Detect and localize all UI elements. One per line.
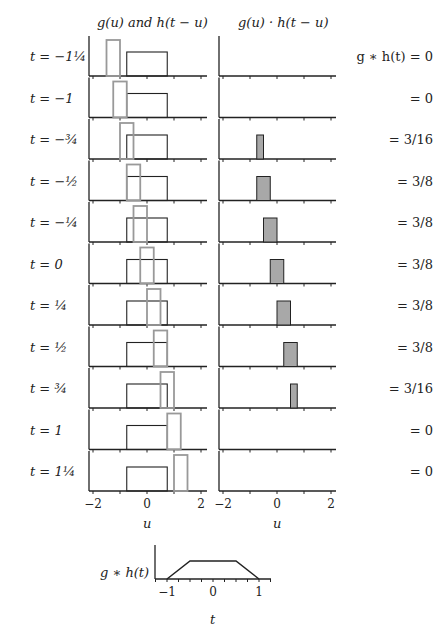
left-u-tick-label: 2 — [191, 497, 211, 511]
t-value-label: t = −¼ — [30, 215, 78, 230]
right-u-tick-label: −2 — [213, 497, 233, 511]
right-u-tick-label: 0 — [267, 497, 287, 511]
t-axis-label: t — [210, 612, 215, 627]
t-tick-label: 0 — [203, 585, 223, 599]
t-value-label: t = ½ — [30, 340, 67, 355]
h-shifted-rectangle — [107, 40, 121, 76]
convolution-result: = 3/16 — [389, 381, 433, 396]
t-tick-label: −1 — [157, 585, 177, 599]
g-rectangle — [127, 467, 168, 491]
h-shifted-rectangle — [113, 82, 127, 118]
h-shifted-rectangle — [140, 248, 154, 284]
t-tick-label: 1 — [249, 585, 269, 599]
product-rectangle — [257, 177, 271, 201]
g-rectangle — [127, 426, 168, 450]
convolution-result: = 3/8 — [397, 174, 433, 189]
t-value-label: t = 1¼ — [30, 464, 75, 479]
h-shifted-rectangle — [127, 165, 141, 201]
t-value-label: t = −½ — [30, 174, 78, 189]
u-axis-label-right: u — [273, 516, 281, 531]
convolution-result: = 3/8 — [397, 340, 433, 355]
t-value-label: t = 0 — [30, 257, 63, 272]
h-shifted-rectangle — [174, 455, 188, 491]
product-rectangle — [257, 135, 264, 159]
convolution-result: = 3/8 — [397, 257, 433, 272]
t-value-label: t = −¾ — [30, 132, 78, 147]
right-u-tick-label: 2 — [321, 497, 341, 511]
product-rectangle — [291, 384, 298, 408]
convolution-result: = 3/8 — [397, 215, 433, 230]
left-u-tick-label: 0 — [137, 497, 157, 511]
t-value-label: t = −1¼ — [30, 49, 86, 64]
t-value-label: t = 1 — [30, 423, 63, 438]
convolution-curve — [167, 561, 259, 579]
result-ylabel: g ∗ h(t) — [100, 565, 149, 580]
u-axis-label-left: u — [143, 516, 151, 531]
g-rectangle — [127, 343, 168, 367]
t-value-label: t = ¾ — [30, 381, 67, 396]
product-rectangle — [270, 260, 284, 284]
product-rectangle — [277, 301, 291, 325]
convolution-result: = 0 — [410, 91, 433, 106]
convolution-result: = 3/16 — [389, 132, 433, 147]
g-rectangle — [127, 260, 168, 284]
convolution-result: = 3/8 — [397, 298, 433, 313]
convolution-result: g ∗ h(t) = 0 — [356, 49, 433, 64]
h-shifted-rectangle — [147, 289, 161, 325]
convolution-result: = 0 — [410, 423, 433, 438]
t-value-label: t = −1 — [30, 91, 74, 106]
g-rectangle — [127, 177, 168, 201]
g-rectangle — [127, 52, 168, 76]
h-shifted-rectangle — [134, 206, 148, 242]
h-shifted-rectangle — [154, 331, 168, 367]
h-shifted-rectangle — [167, 414, 181, 450]
product-rectangle — [264, 218, 278, 242]
t-value-label: t = ¼ — [30, 298, 67, 313]
g-rectangle — [127, 94, 168, 118]
left-u-tick-label: −2 — [83, 497, 103, 511]
product-rectangle — [284, 343, 298, 367]
convolution-result: = 0 — [410, 464, 433, 479]
